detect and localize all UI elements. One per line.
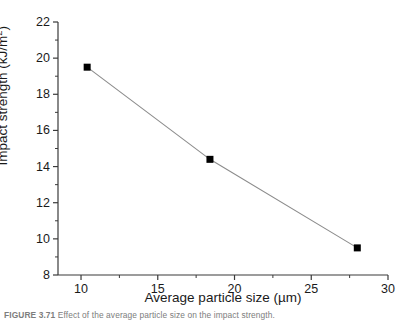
figure-caption-text: Effect of the average particle size on t… bbox=[58, 310, 275, 320]
y-axis-title: Impact strength (kJ/m2) bbox=[0, 0, 11, 196]
y-axis-ticks bbox=[53, 22, 58, 275]
data-point-marker bbox=[206, 156, 213, 163]
y-axis-title-close: ) bbox=[0, 26, 10, 31]
y-tick-label: 10 bbox=[20, 233, 50, 246]
figure-caption: FIGURE 3.71 Effect of the average partic… bbox=[4, 310, 402, 320]
data-point-marker bbox=[354, 244, 361, 251]
x-axis-title-close: ) bbox=[297, 290, 302, 305]
y-tick-label: 14 bbox=[20, 160, 50, 173]
y-axis-title-text: Impact strength (kJ/m bbox=[0, 36, 10, 166]
x-axis-ticks bbox=[81, 275, 388, 280]
data-series-markers bbox=[84, 64, 361, 252]
data-series-line bbox=[87, 67, 357, 248]
x-axis-title-text: Average particle size ( bbox=[145, 290, 278, 305]
x-axis-title: Average particle size (µm) bbox=[58, 290, 388, 305]
y-tick-label: 18 bbox=[20, 88, 50, 101]
y-tick-label: 16 bbox=[20, 124, 50, 137]
y-tick-label: 20 bbox=[20, 52, 50, 65]
figure-caption-label: FIGURE 3.71 bbox=[4, 310, 55, 320]
x-axis-unit-micrometer: µm bbox=[278, 290, 297, 305]
y-axis-title-superscript: 2 bbox=[0, 31, 4, 36]
data-point-marker bbox=[84, 64, 91, 71]
figure-container: 810121416182022 1015202530 Impact streng… bbox=[0, 0, 402, 321]
chart-canvas bbox=[0, 0, 402, 321]
y-tick-label: 12 bbox=[20, 196, 50, 209]
y-tick-label: 22 bbox=[20, 16, 50, 29]
y-tick-label: 8 bbox=[20, 269, 50, 282]
